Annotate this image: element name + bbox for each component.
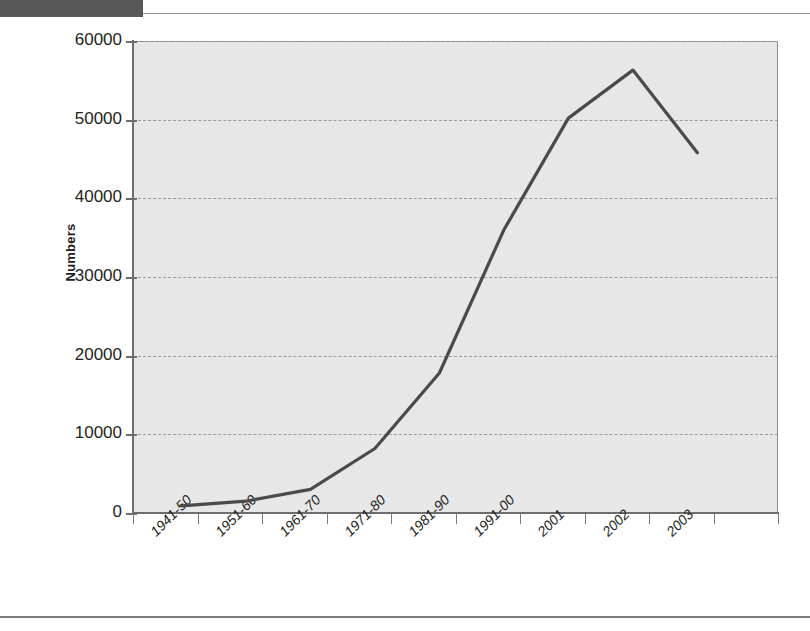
- x-axis-tick-mark: [198, 514, 199, 524]
- y-axis-tick-label: 0: [113, 502, 122, 522]
- line-chart-figure: Numbers 0100002000030000400005000060000 …: [0, 0, 810, 631]
- x-axis-tick-mark: [714, 514, 715, 524]
- page-top-rule: [143, 13, 810, 14]
- y-axis-tick-label: 40000: [75, 187, 122, 207]
- y-axis-tick-mark: [126, 277, 137, 279]
- gridline: [133, 198, 778, 199]
- x-axis-tick-mark: [262, 514, 263, 524]
- gridline: [133, 41, 778, 42]
- y-axis-tick-label: 30000: [75, 266, 122, 286]
- x-axis-tick-mark: [456, 514, 457, 524]
- gridline: [133, 120, 778, 121]
- x-axis-tick-mark: [649, 514, 650, 524]
- x-axis-tick-mark: [391, 514, 392, 524]
- y-axis-tick-mark: [126, 434, 137, 436]
- x-axis-tick-mark: [520, 514, 521, 524]
- x-axis-tick-mark: [327, 514, 328, 524]
- y-axis-tick-mark: [126, 120, 137, 122]
- y-axis-tick-label: 10000: [75, 423, 122, 443]
- x-axis-tick-mark: [585, 514, 586, 524]
- gridline: [133, 434, 778, 435]
- y-axis-tick-label: 20000: [75, 345, 122, 365]
- y-axis-tick-mark: [126, 513, 137, 515]
- x-axis-tick-mark: [133, 514, 134, 524]
- y-axis-tick-mark: [126, 41, 137, 43]
- x-axis-tick-mark: [778, 514, 779, 524]
- y-axis-tick-label: 60000: [75, 30, 122, 50]
- y-axis-tick-mark: [126, 198, 137, 200]
- gridline: [133, 356, 778, 357]
- y-axis-tick-mark: [126, 356, 137, 358]
- y-axis-tick-label: 50000: [75, 109, 122, 129]
- y-axis-tick-labels: 0100002000030000400005000060000: [0, 0, 122, 631]
- gridline: [133, 277, 778, 278]
